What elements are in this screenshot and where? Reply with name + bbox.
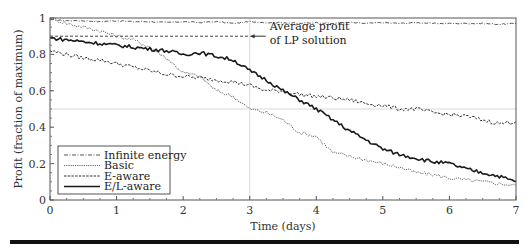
y-tick-label: 0.4 [29,121,47,134]
footer-rule [10,240,519,244]
annotation-line-1: Average profit [269,20,350,33]
legend: Infinite energyBasicE-awareE/L-aware [58,146,187,194]
x-tick-label: 1 [113,204,120,217]
y-tick-label: 0.8 [29,48,47,61]
x-tick-label: 2 [180,204,187,217]
x-tick-label: 6 [446,204,453,217]
y-tick-label: 1 [39,12,46,25]
x-tick-label: 0 [47,204,54,217]
x-axis: 01234567 [47,196,520,217]
x-tick-label: 5 [379,204,386,217]
y-axis-label: Profit (fraction of maximum) [12,29,25,188]
arrowhead-icon [250,34,255,38]
y-tick-label: 0.2 [29,158,47,171]
annotation-line-2: of LP solution [270,34,347,47]
x-tick-label: 7 [513,204,520,217]
y-tick-label: 0.6 [29,85,47,98]
x-axis-label: Time (days) [250,220,315,233]
series-e-aware [50,51,516,125]
profit-chart: 01234567 00.20.40.60.81 Time (days) Prof… [0,0,530,249]
y-tick-label: 0 [39,194,46,207]
x-tick-label: 4 [313,204,320,217]
x-tick-label: 3 [246,204,253,217]
lp-annotation: Average profit of LP solution [250,20,350,47]
legend-label: E/L-aware [104,180,161,193]
